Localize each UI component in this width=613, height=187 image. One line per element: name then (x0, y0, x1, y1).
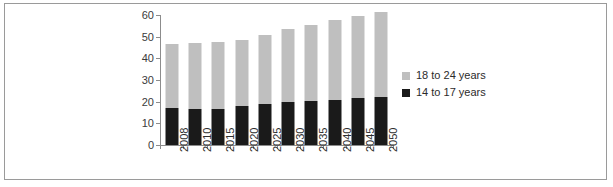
legend-item-label: 14 to 17 years (416, 87, 486, 98)
bar-segment-18-to-24-years[interactable] (258, 35, 271, 105)
bar-segment-14-to-17-years[interactable] (375, 97, 388, 145)
x-tick-mark (160, 145, 161, 149)
x-axis-category-label: 2045 (365, 128, 376, 152)
legend-color-swatch-icon (402, 72, 410, 80)
y-axis-line (160, 15, 161, 146)
x-axis-category-label: 2008 (179, 128, 190, 152)
bar-segment-18-to-24-years[interactable] (305, 25, 318, 101)
legend-color-swatch-icon (402, 89, 410, 97)
stacked-bar[interactable] (352, 16, 365, 145)
y-tick-label: 10 (142, 118, 154, 129)
y-tick-label: 0 (148, 140, 154, 151)
legend-item[interactable]: 18 to 24 years (402, 67, 486, 84)
bar-segment-18-to-24-years[interactable] (328, 20, 341, 99)
bar-segment-18-to-24-years[interactable] (282, 29, 295, 102)
legend-item[interactable]: 14 to 17 years (402, 84, 486, 101)
y-tick-mark (156, 102, 160, 103)
stacked-bar[interactable] (328, 20, 341, 145)
bar-segment-18-to-24-years[interactable] (188, 43, 201, 109)
bar-segment-14-to-17-years[interactable] (305, 101, 318, 145)
bar-segment-14-to-17-years[interactable] (258, 104, 271, 145)
stacked-bar[interactable] (258, 35, 271, 145)
stacked-bar[interactable] (375, 12, 388, 145)
bar-segment-18-to-24-years[interactable] (235, 40, 248, 106)
y-tick-label: 60 (142, 10, 154, 21)
stacked-bar[interactable] (212, 42, 225, 145)
bar-segment-18-to-24-years[interactable] (165, 44, 178, 108)
x-axis-category-label: 2020 (249, 128, 260, 152)
bar-segment-14-to-17-years[interactable] (352, 98, 365, 145)
y-tick-mark (156, 123, 160, 124)
y-tick-mark (156, 37, 160, 38)
bar-segment-14-to-17-years[interactable] (212, 109, 225, 145)
x-axis-category-label: 2025 (272, 128, 283, 152)
x-axis-category-label: 2050 (389, 128, 400, 152)
y-tick-label: 50 (142, 31, 154, 42)
bar-segment-14-to-17-years[interactable] (188, 109, 201, 145)
legend-item-label: 18 to 24 years (416, 70, 486, 81)
y-tick-label: 30 (142, 75, 154, 86)
chart-figure-frame: 0102030405060 20082010201520202025203020… (4, 3, 607, 180)
bar-segment-18-to-24-years[interactable] (212, 42, 225, 109)
bar-segment-14-to-17-years[interactable] (282, 102, 295, 145)
bar-segment-14-to-17-years[interactable] (235, 106, 248, 145)
y-tick-mark (156, 80, 160, 81)
chart-figure-inner: 0102030405060 20082010201520202025203020… (5, 4, 606, 179)
plot-area: 0102030405060 20082010201520202025203020… (160, 15, 393, 145)
bar-segment-14-to-17-years[interactable] (328, 100, 341, 146)
stacked-bar[interactable] (305, 25, 318, 145)
stacked-bar-chart: 0102030405060 20082010201520202025203020… (5, 4, 608, 181)
bar-segment-14-to-17-years[interactable] (165, 108, 178, 145)
stacked-bar[interactable] (165, 44, 178, 145)
x-axis-category-label: 2010 (202, 128, 213, 152)
y-tick-label: 20 (142, 96, 154, 107)
bar-segment-18-to-24-years[interactable] (375, 12, 388, 97)
stacked-bar[interactable] (282, 29, 295, 145)
x-axis-category-label: 2030 (295, 128, 306, 152)
x-axis-category-label: 2035 (319, 128, 330, 152)
x-axis-category-label: 2015 (225, 128, 236, 152)
x-axis-category-label: 2040 (342, 128, 353, 152)
y-tick-mark (156, 58, 160, 59)
bar-segment-18-to-24-years[interactable] (352, 16, 365, 98)
stacked-bar[interactable] (235, 40, 248, 145)
y-tick-mark (156, 15, 160, 16)
chart-legend: 18 to 24 years14 to 17 years (402, 67, 486, 101)
y-tick-label: 40 (142, 53, 154, 64)
stacked-bar[interactable] (188, 43, 201, 145)
